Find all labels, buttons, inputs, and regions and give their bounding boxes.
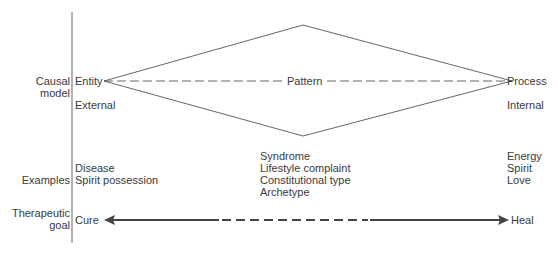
- internal-label: Internal: [507, 99, 544, 111]
- list-item: Archetype: [260, 186, 351, 198]
- examples-center-list: Syndrome Lifestyle complaint Constitutio…: [260, 150, 351, 198]
- list-item: Constitutional type: [260, 174, 351, 186]
- list-item: Disease: [75, 162, 158, 174]
- examples-left-list: Disease Spirit possession: [75, 162, 158, 186]
- process-label: Process: [507, 75, 547, 87]
- pattern-label: Pattern: [285, 75, 324, 87]
- entity-label: Entity: [75, 75, 103, 87]
- list-item: Love: [507, 174, 542, 186]
- cure-label: Cure: [75, 214, 99, 226]
- row-label-therapeutic-goal: Therapeutic goal: [0, 207, 70, 231]
- row-label-causal-model: Causal model: [0, 75, 70, 99]
- list-item: Spirit possession: [75, 174, 158, 186]
- external-label: External: [75, 99, 115, 111]
- list-item: Energy: [507, 150, 542, 162]
- examples-right-list: Energy Spirit Love: [507, 150, 542, 186]
- row-label-examples: Examples: [0, 174, 70, 186]
- list-item: Syndrome: [260, 150, 351, 162]
- list-item: Lifestyle complaint: [260, 162, 351, 174]
- heal-label: Heal: [511, 214, 534, 226]
- list-item: Spirit: [507, 162, 542, 174]
